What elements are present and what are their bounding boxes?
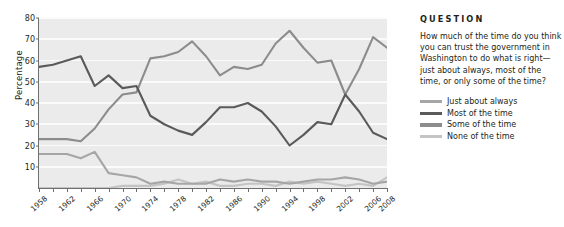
x-axis-tick-mark xyxy=(81,188,82,192)
x-axis-tick-label: 1982 xyxy=(196,194,216,213)
x-axis-tick-mark xyxy=(234,188,235,192)
y-axis-tick-mark xyxy=(36,39,39,40)
legend-label: None of the time xyxy=(447,131,514,143)
series-lines xyxy=(39,18,387,188)
x-axis-tick-mark xyxy=(53,188,54,192)
legend-item: Most of the time xyxy=(420,108,564,120)
x-axis-tick-mark xyxy=(373,188,374,192)
question-heading: QUESTION xyxy=(420,14,484,24)
y-axis-label: Percentage xyxy=(14,25,24,125)
legend-swatch-icon xyxy=(420,123,442,126)
x-axis-tick-mark xyxy=(276,188,277,192)
y-axis-tick-mark xyxy=(36,18,39,19)
x-axis-tick-mark xyxy=(192,188,193,192)
x-axis-tick-label: 1958 xyxy=(29,194,49,213)
x-axis-tick-label: 1978 xyxy=(168,194,188,213)
x-axis-tick-mark xyxy=(136,188,137,192)
side-panel: QUESTION How much of the time do you thi… xyxy=(420,0,564,227)
question-text: How much of the time do you think you ca… xyxy=(420,31,562,87)
x-axis-tick-label: 1966 xyxy=(84,194,104,213)
x-axis-tick-mark xyxy=(39,188,40,192)
x-axis-tick-mark xyxy=(331,188,332,192)
x-axis-tick-label: 1990 xyxy=(252,194,272,213)
x-axis-tick-mark xyxy=(178,188,179,192)
line-chart: Percentage 10203040506070801958196219661… xyxy=(0,0,400,227)
y-axis-tick-mark xyxy=(36,166,39,167)
series-line xyxy=(39,152,387,184)
x-axis-tick-mark xyxy=(109,188,110,192)
legend-item: Just about always xyxy=(420,96,564,108)
x-axis-tick-mark xyxy=(359,188,360,192)
x-axis-tick-mark xyxy=(220,188,221,192)
y-axis-tick-mark xyxy=(36,81,39,82)
x-axis-tick-mark xyxy=(248,188,249,192)
series-line xyxy=(39,31,387,142)
legend-swatch-icon xyxy=(420,135,442,138)
x-axis-tick-mark xyxy=(150,188,151,192)
y-axis-tick-mark xyxy=(36,145,39,146)
x-axis-tick-mark xyxy=(303,188,304,192)
x-axis-tick-mark xyxy=(290,188,291,192)
x-axis-tick-mark xyxy=(262,188,263,192)
x-axis-tick-label: 2002 xyxy=(335,194,355,213)
x-axis-tick-mark xyxy=(345,188,346,192)
legend-swatch-icon xyxy=(420,112,442,115)
legend-label: Most of the time xyxy=(447,108,513,120)
x-axis-tick-label: 1970 xyxy=(112,194,132,213)
x-axis-tick-mark xyxy=(67,188,68,192)
x-axis-tick-label: 1998 xyxy=(307,194,327,213)
legend-item: Some of the time xyxy=(420,119,564,131)
x-axis-tick-mark xyxy=(387,188,388,192)
x-axis-tick-label: 1962 xyxy=(57,194,77,213)
x-axis-tick-mark xyxy=(206,188,207,192)
y-axis-tick-mark xyxy=(36,103,39,104)
x-axis-tick-mark xyxy=(123,188,124,192)
x-axis-tick-label: 1986 xyxy=(224,194,244,213)
legend: Just about alwaysMost of the timeSome of… xyxy=(420,96,564,142)
y-axis-tick-mark xyxy=(36,60,39,61)
x-axis-tick-label: 1994 xyxy=(279,194,299,213)
y-axis-tick-mark xyxy=(36,124,39,125)
legend-item: None of the time xyxy=(420,131,564,143)
plot-area: 1020304050607080195819621966197019741978… xyxy=(38,18,387,189)
x-axis-tick-mark xyxy=(164,188,165,192)
x-axis-tick-mark xyxy=(317,188,318,192)
x-axis-tick-label: 1974 xyxy=(140,194,160,213)
legend-label: Some of the time xyxy=(447,119,516,131)
legend-swatch-icon xyxy=(420,100,442,103)
chart-page: Percentage 10203040506070801958196219661… xyxy=(0,0,564,227)
x-axis-tick-mark xyxy=(95,188,96,192)
legend-label: Just about always xyxy=(447,96,517,108)
